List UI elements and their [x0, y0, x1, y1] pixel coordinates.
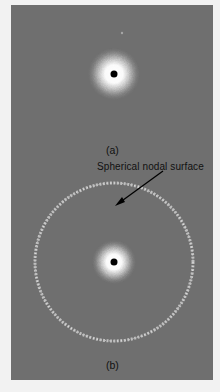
- orbital-2s-cloud: [35, 183, 193, 341]
- nodal-surface-label: Spherical nodal surface: [97, 161, 204, 172]
- electron-density-figure: [11, 5, 213, 380]
- orbital-1s-cloud: [88, 32, 140, 100]
- nucleus-icon: [111, 71, 118, 78]
- panel-b-caption: (b): [106, 359, 119, 371]
- nucleus-icon: [111, 259, 118, 266]
- figure-panel: (a) Spherical nodal surface (b): [11, 5, 213, 380]
- arrow-icon: [115, 171, 163, 206]
- panel-a-caption: (a): [106, 144, 119, 156]
